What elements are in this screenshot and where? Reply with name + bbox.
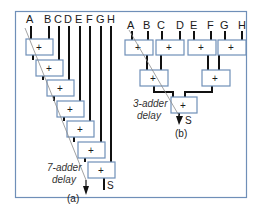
adder-symbol: +	[46, 63, 52, 74]
caption-a: (a)	[67, 193, 79, 204]
input-label-f: F	[86, 13, 93, 25]
adder-symbol: +	[166, 42, 172, 53]
adder-symbol: +	[88, 145, 94, 156]
input-label-c: C	[54, 13, 62, 25]
input-label-a: A	[26, 13, 34, 25]
input-label-e: E	[190, 19, 197, 31]
adder-symbol: +	[98, 165, 104, 176]
delay-arrow-icon	[83, 186, 89, 195]
input-label-b: B	[44, 13, 51, 25]
input-label-c: C	[157, 19, 165, 31]
panel-b: A B C D E F G H	[125, 19, 246, 139]
adder-symbol: +	[57, 83, 63, 94]
adder-symbol: +	[77, 124, 83, 135]
caption-b: (b)	[175, 128, 187, 139]
input-label-d: D	[176, 19, 184, 31]
adder-symbol: +	[36, 42, 42, 53]
input-label-d: D	[64, 13, 72, 25]
adder-symbol: +	[135, 42, 141, 53]
input-label-g: G	[220, 19, 229, 31]
delay-label-a-line1: 7-adder	[47, 162, 82, 173]
adder-symbol: +	[180, 100, 186, 111]
adder-symbol: +	[212, 73, 218, 84]
input-label-f: F	[207, 19, 214, 31]
delay-arrow-icon	[176, 116, 183, 125]
input-label-e: E	[75, 13, 82, 25]
adder-symbol: +	[198, 42, 204, 53]
adder-symbol: +	[67, 104, 73, 115]
input-label-h: H	[107, 13, 115, 25]
input-label-h: H	[238, 19, 246, 31]
adder-diagram: A B C D E F G H	[0, 0, 264, 220]
panel-a: A B C D E F G H	[25, 13, 115, 204]
output-label-s-a: S	[107, 180, 114, 191]
input-label-a: A	[127, 19, 135, 31]
output-label-s-b: S	[185, 115, 192, 126]
delay-label-b-line1: 3-adder	[133, 98, 168, 109]
delay-label-b-line2: delay	[137, 110, 162, 121]
input-label-b: B	[143, 19, 150, 31]
delay-label-a-line2: delay	[52, 174, 77, 185]
input-label-g: G	[96, 13, 105, 25]
adder-symbol: +	[228, 42, 234, 53]
